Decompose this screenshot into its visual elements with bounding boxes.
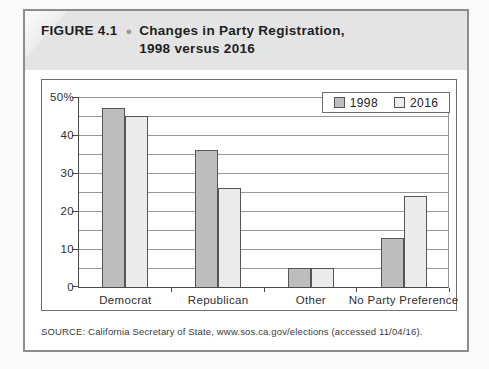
x-axis-tick-3 [449, 288, 450, 292]
y-axis-label-40: 40 [46, 129, 74, 141]
figure-header: FIGURE 4.1 ● Changes in Party Registrati… [25, 11, 467, 70]
figure-title: Changes in Party Registration, 1998 vers… [139, 22, 345, 58]
bar-1998-other [288, 268, 311, 287]
plot-area: 01020304050%DemocratRepublicanOtherNo Pa… [78, 98, 449, 288]
figure-title-row: FIGURE 4.1 ● Changes in Party Registrati… [41, 22, 345, 58]
bar-1998-no-party-preference [381, 238, 404, 287]
figure-number: FIGURE 4.1 [41, 22, 118, 40]
legend-swatch-1998 [334, 97, 345, 108]
y-axis-label-0: 0 [46, 281, 74, 293]
chart-box: 01020304050%DemocratRepublicanOtherNo Pa… [41, 79, 457, 311]
x-axis-tick-2 [356, 288, 357, 292]
page: FIGURE 4.1 ● Changes in Party Registrati… [0, 0, 489, 369]
bar-2016-no-party-preference [404, 196, 427, 287]
y-axis-label-30: 30 [46, 167, 74, 179]
x-axis-tick-0 [171, 288, 172, 292]
source-line: SOURCE: California Secretary of State, w… [41, 326, 461, 337]
legend-item-1998: 1998 [334, 96, 378, 110]
legend-label-2016: 2016 [410, 96, 438, 110]
chart-legend: 19982016 [322, 92, 450, 113]
bar-1998-republican [195, 150, 218, 287]
figure-card: FIGURE 4.1 ● Changes in Party Registrati… [23, 9, 469, 352]
legend-item-2016: 2016 [394, 96, 438, 110]
bar-2016-other [311, 268, 334, 287]
y-axis-label-20: 20 [46, 205, 74, 217]
y-axis-label-50: 50% [46, 91, 74, 103]
figure-title-line2: 1998 versus 2016 [139, 41, 255, 56]
y-axis-label-10: 10 [46, 243, 74, 255]
x-axis-label-no-party-preference: No Party Preference [329, 294, 479, 306]
bullet-icon: ● [126, 22, 133, 40]
bar-2016-republican [218, 188, 241, 287]
x-axis-tick-1 [264, 288, 265, 292]
figure-title-line1: Changes in Party Registration, [139, 23, 345, 38]
legend-label-1998: 1998 [350, 96, 378, 110]
bar-1998-democrat [102, 108, 125, 287]
legend-swatch-2016 [394, 97, 405, 108]
bar-2016-democrat [125, 116, 148, 287]
